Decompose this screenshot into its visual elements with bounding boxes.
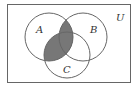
set-a-label: A bbox=[35, 24, 43, 35]
venn-diagram: A B C U bbox=[0, 0, 136, 89]
universe-label: U bbox=[116, 12, 125, 23]
set-b-label: B bbox=[89, 24, 97, 35]
set-c-label: C bbox=[63, 64, 71, 75]
